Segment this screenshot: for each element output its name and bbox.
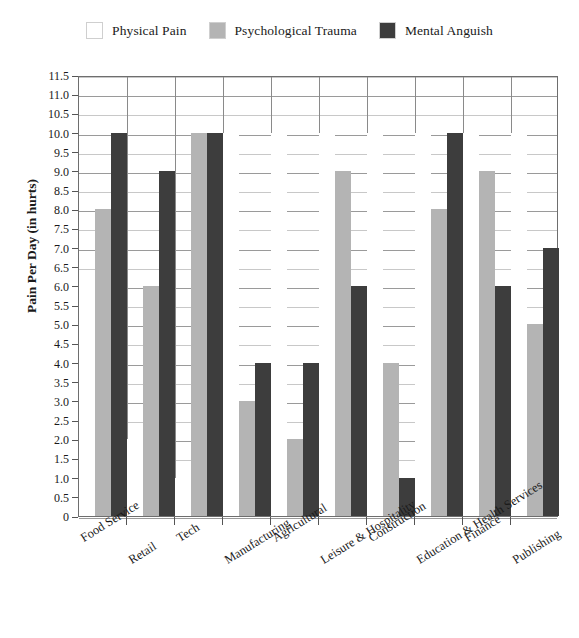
bars-layer [79,77,557,516]
y-axis-tick: 8.5 [54,184,78,198]
legend-item-physical-pain: Physical Pain [86,22,186,39]
legend-swatch-psychological-trauma [209,22,226,39]
bar [335,171,351,516]
bar [543,248,559,516]
bar [111,133,127,516]
x-axis-label: Publishing [510,527,563,568]
y-axis-tick: 11.0 [48,88,78,102]
bar [431,209,447,516]
y-axis-tick: 10.5 [48,107,78,121]
y-axis-tick: 5.0 [54,318,78,332]
bar [79,286,95,516]
bar [207,133,223,516]
bar [191,133,207,516]
y-axis-tick: 2.0 [54,433,78,447]
bar [271,133,287,516]
bar [159,171,175,516]
y-axis-tick: 8.0 [54,203,78,217]
legend-item-psychological-trauma: Psychological Trauma [209,22,357,39]
bar [463,133,479,516]
legend-item-mental-anguish: Mental Anguish [379,22,493,39]
bar [95,209,111,516]
x-axis-label: Retail [126,539,159,568]
y-axis-tick: 9.0 [54,165,78,179]
y-axis-tick: 7.0 [54,242,78,256]
bar [303,363,319,516]
chart-legend: Physical Pain Psychological Trauma Menta… [0,22,579,39]
x-axis-labels: Food ServiceRetailTechManufacturingAgric… [0,517,579,638]
bar [319,133,335,516]
x-axis-label: Tech [174,520,202,545]
bar [495,286,511,516]
legend-label-psychological-trauma: Psychological Trauma [235,23,357,39]
bar [351,286,367,516]
y-axis-tick: 1.0 [54,472,78,486]
y-axis-title: Pain Per Day (in hurts) [24,146,40,346]
bar [479,171,495,516]
bar [287,439,303,516]
bar [415,133,431,516]
bar [383,363,399,516]
bar [367,133,383,516]
y-axis-tick: 4.5 [54,337,78,351]
y-axis-tick: 7.5 [54,222,78,236]
legend-label-mental-anguish: Mental Anguish [405,23,493,39]
y-axis-tick: 4.0 [54,357,78,371]
bar [175,478,191,516]
y-axis-tick: 9.5 [54,146,78,160]
y-axis-tick: 5.5 [54,299,78,313]
bar [239,401,255,516]
y-axis-tick: 11.5 [48,69,78,83]
y-axis-tick: 2.5 [54,414,78,428]
bar [223,133,239,516]
y-axis-tick: 0.5 [54,491,78,505]
y-axis-tick: 1.5 [54,452,78,466]
y-axis-tick: 3.5 [54,376,78,390]
y-axis-tick: 3.0 [54,395,78,409]
bar [511,133,527,516]
plot-area [78,76,558,517]
bar [255,363,271,516]
y-axis-tick: 10.0 [48,127,78,141]
y-axis-tick: 6.0 [54,280,78,294]
legend-swatch-physical-pain [86,22,103,39]
bar [143,286,159,516]
legend-swatch-mental-anguish [379,22,396,39]
bar [447,133,463,516]
legend-label-physical-pain: Physical Pain [112,23,186,39]
y-axis-tick: 6.5 [54,261,78,275]
